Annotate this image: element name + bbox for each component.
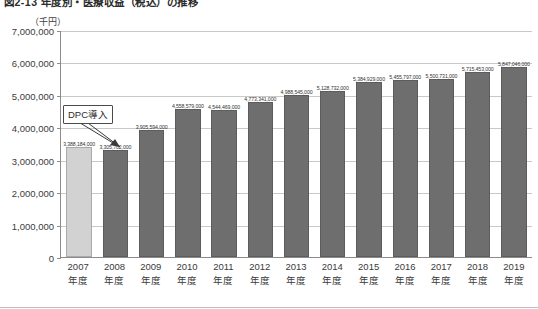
bar-value-label: 5,715,453,000 [462,66,494,72]
x-axis-year: 2018 [459,260,495,274]
x-axis-year: 2015 [351,260,387,274]
bar-2007[interactable]: 3,388,184,000 [66,147,91,257]
bar-cell: 4,544,469,000 [206,31,242,257]
bar-2016[interactable]: 5,455,797,000 [393,80,418,257]
bar-cell: 5,128,732,000 [315,31,351,257]
page-bottom-rule [0,307,538,308]
x-axis-year: 2014 [314,260,350,274]
x-axis-nendo: 年度 [96,274,132,288]
bar-value-label: 5,847,046,000 [498,61,530,67]
x-axis-label-2014: 2014年度 [314,260,350,288]
x-axis-nendo: 年度 [387,274,423,288]
bars-group: 3,388,184,0003,305,702,0003,905,594,0004… [61,31,532,257]
y-axis-tick-label: 3,000,000 [12,155,54,166]
x-axis-label-2017: 2017年度 [423,260,459,288]
bar-cell: 3,388,184,000 [61,31,97,257]
dpc-annotation-callout: DPC導入 [63,105,113,124]
plot-area: 3,388,184,0003,305,702,0003,905,594,0004… [60,31,532,258]
x-axis-label-2007: 2007年度 [60,260,96,288]
x-axis-nendo: 年度 [169,274,205,288]
bar-cell: 4,988,545,000 [278,31,314,257]
bar-value-label: 4,773,341,000 [244,96,276,102]
bar-value-label: 4,544,469,000 [208,104,240,110]
bar-value-label: 3,905,594,000 [136,124,168,130]
bar-cell: 3,905,594,000 [133,31,169,257]
bar-cell: 5,715,453,000 [460,31,496,257]
bar-cell: 5,455,797,000 [387,31,423,257]
bar-2012[interactable]: 4,773,341,000 [248,102,273,257]
x-axis-label-2016: 2016年度 [387,260,423,288]
y-axis-tick-label: 0 [49,253,54,264]
x-axis-label-2018: 2018年度 [459,260,495,288]
x-axis-year: 2007 [60,260,96,274]
x-axis-nendo: 年度 [314,274,350,288]
bar-value-label: 5,455,797,000 [389,74,421,80]
bar-cell: 4,558,579,000 [170,31,206,257]
x-axis-nendo: 年度 [459,274,495,288]
x-axis-label-2015: 2015年度 [351,260,387,288]
x-axis-year: 2019 [496,260,532,274]
x-axis-nendo: 年度 [351,274,387,288]
bar-2015[interactable]: 5,384,929,000 [356,82,381,257]
x-axis-nendo: 年度 [205,274,241,288]
x-axis-year: 2008 [96,260,132,274]
y-axis-tick-label: 6,000,000 [12,58,54,69]
x-axis-nendo: 年度 [60,274,96,288]
bar-value-label: 5,500,731,000 [426,73,458,79]
x-axis-label-2009: 2009年度 [133,260,169,288]
x-axis-nendo: 年度 [278,274,314,288]
x-axis-label-2019: 2019年度 [496,260,532,288]
bar-value-label: 3,305,702,000 [99,144,131,150]
y-axis-tick-label: 2,000,000 [12,188,54,199]
bar-cell: 5,384,929,000 [351,31,387,257]
bar-2010[interactable]: 4,558,579,000 [175,109,200,257]
bar-2011[interactable]: 4,544,469,000 [211,110,236,257]
bar-2014[interactable]: 5,128,732,000 [320,91,345,257]
bar-cell: 4,773,341,000 [242,31,278,257]
chart-page: 図2-13 年度別・医療収益（税込）の推移 （千円） 3,388,184,000… [0,0,538,309]
x-axis-year: 2010 [169,260,205,274]
bar-2019[interactable]: 5,847,046,000 [501,67,526,257]
y-axis-tick-label: 7,000,000 [12,26,54,37]
y-axis-tick-label: 1,000,000 [12,220,54,231]
bar-cell: 5,500,731,000 [423,31,459,257]
x-axis-year: 2012 [242,260,278,274]
y-axis-tick-label: 5,000,000 [12,90,54,101]
x-axis-nendo: 年度 [423,274,459,288]
bar-value-label: 5,128,732,000 [317,85,349,91]
bar-cell: 3,305,702,000 [97,31,133,257]
bar-value-label: 3,388,184,000 [63,141,95,147]
bar-2009[interactable]: 3,905,594,000 [139,130,164,257]
x-axis-year: 2017 [423,260,459,274]
x-axis-labels-group: 2007年度2008年度2009年度2010年度2011年度2012年度2013… [60,260,532,288]
x-axis-nendo: 年度 [496,274,532,288]
y-axis-tick [57,258,61,259]
x-axis-label-2011: 2011年度 [205,260,241,288]
x-axis-label-2013: 2013年度 [278,260,314,288]
x-axis-nendo: 年度 [242,274,278,288]
x-axis-label-2008: 2008年度 [96,260,132,288]
x-axis-year: 2016 [387,260,423,274]
bar-cell: 5,847,046,000 [496,31,532,257]
bar-2008[interactable]: 3,305,702,000 [103,150,128,257]
x-axis-label-2010: 2010年度 [169,260,205,288]
x-axis-label-2012: 2012年度 [242,260,278,288]
bar-value-label: 4,988,545,000 [281,89,313,95]
bar-2013[interactable]: 4,988,545,000 [284,95,309,257]
bar-2017[interactable]: 5,500,731,000 [429,79,454,257]
bar-2018[interactable]: 5,715,453,000 [465,72,490,257]
bar-value-label: 5,384,929,000 [353,76,385,82]
x-axis-year: 2013 [278,260,314,274]
x-axis-year: 2009 [133,260,169,274]
y-axis-tick-label: 4,000,000 [12,123,54,134]
figure-caption: 図2-13 年度別・医療収益（税込）の推移 [4,0,198,9]
x-axis-year: 2011 [205,260,241,274]
x-axis-nendo: 年度 [133,274,169,288]
bar-value-label: 4,558,579,000 [172,103,204,109]
